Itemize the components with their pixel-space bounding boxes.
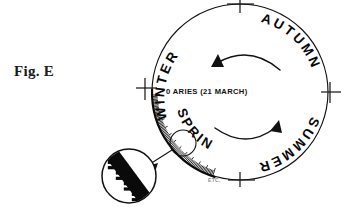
magnified-tick (124, 187, 136, 190)
seasonal-wheel-diagram: WINTER AUTUMN SUMMER SPRING 0 ARIES (21 … (0, 0, 350, 207)
magnified-tick (132, 193, 140, 196)
magnified-tick (116, 171, 124, 174)
cardinal-tick-bottom (228, 172, 255, 187)
upper-flow-arrow (211, 54, 280, 70)
magnifier-inset (100, 149, 156, 204)
season-label-summer-text: SUMMER (256, 115, 323, 175)
cardinal-tick-top (227, 0, 254, 13)
figure-canvas: WINTER AUTUMN SUMMER SPRING 0 ARIES (21 … (0, 0, 350, 207)
magnified-tick (124, 182, 132, 185)
lower-flow-arrow (215, 120, 282, 139)
scale-tick (213, 168, 215, 175)
detail-leader-line (150, 150, 172, 164)
season-label-summer: SUMMER (256, 115, 323, 175)
scale-tick (205, 165, 208, 172)
magnified-tick (108, 161, 116, 164)
magnified-tick (116, 177, 128, 180)
aries-annotation: 0 ARIES (21 MARCH) (166, 87, 248, 96)
etc-annotation: ETC. (208, 177, 221, 183)
figure-caption: Fig. E (14, 63, 54, 79)
cardinal-tick-right (321, 82, 341, 103)
magnified-tick (108, 166, 120, 169)
